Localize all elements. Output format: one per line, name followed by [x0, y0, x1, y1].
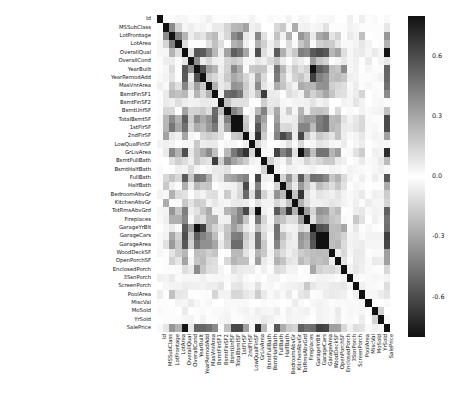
- y-tick-label: FullBath: [130, 175, 151, 180]
- y-tick-label: PoolArea: [128, 292, 151, 297]
- y-tick-label: WoodDeckSF: [116, 250, 151, 255]
- x-axis-tick-labels: IdMSSubClassLotFrontageLotAreaOverallQua…: [157, 334, 390, 404]
- y-tick-label: MSSubClass: [119, 25, 151, 30]
- colorbar-tick-label: 0.3: [432, 113, 442, 119]
- x-tick-label: GrLivArea: [260, 334, 265, 360]
- y-tick-label: GarageArea: [119, 242, 151, 247]
- colorbar-tick-label: 0.6: [432, 53, 442, 59]
- y-tick-label: BsmtHalfBath: [114, 167, 151, 172]
- y-tick-label: Id: [146, 16, 151, 21]
- y-tick-label: YearRemodAdd: [111, 75, 151, 80]
- y-tick-label: LotArea: [131, 41, 151, 46]
- y-tick-label: OverallQual: [120, 50, 151, 55]
- y-tick-label: MiscVal: [131, 300, 151, 305]
- y-tick-label: BsmtFullBath: [116, 158, 151, 163]
- correlation-heatmap-figure: IdMSSubClassLotFrontageLotAreaOverallQua…: [0, 0, 460, 404]
- y-tick-label: BedroomAbvGr: [111, 192, 151, 197]
- y-axis-tick-labels: IdMSSubClassLotFrontageLotAreaOverallQua…: [0, 15, 154, 332]
- y-tick-label: EnclosedPorch: [113, 267, 151, 272]
- colorbar-gradient: [408, 16, 425, 337]
- y-tick-label: 1stFlrSF: [130, 125, 151, 130]
- y-tick-label: YearBuilt: [128, 67, 151, 72]
- y-tick-label: TotalBsmtSF: [119, 117, 151, 122]
- y-tick-label: GrLivArea: [125, 150, 151, 155]
- y-tick-label: Fireplaces: [125, 217, 151, 222]
- x-tick-label: SalePrice: [389, 334, 394, 358]
- y-tick-label: 3SsnPorch: [124, 275, 151, 280]
- y-tick-label: MoSold: [132, 308, 151, 313]
- y-tick-label: GarageCars: [120, 233, 151, 238]
- y-tick-label: OverallCond: [118, 58, 151, 63]
- y-tick-label: GarageYrBlt: [119, 225, 151, 230]
- y-tick-label: HalfBath: [128, 183, 151, 188]
- y-tick-label: LowQualFinSF: [114, 142, 151, 147]
- y-tick-label: BsmtUnfSF: [122, 108, 151, 113]
- colorbar: 0.60.30.0-0.3-0.6: [408, 16, 460, 338]
- heatmap-matrix: [157, 15, 390, 332]
- colorbar-tick-label: -0.3: [432, 233, 444, 239]
- colorbar-tick-label: 0.0: [432, 173, 442, 179]
- y-tick-label: MasVnrArea: [119, 83, 151, 88]
- heatmap-plot-area: [157, 15, 390, 332]
- y-tick-label: SalePrice: [127, 325, 151, 330]
- y-tick-label: BsmtFinSF2: [120, 100, 151, 105]
- y-tick-label: YrSold: [134, 317, 151, 322]
- y-tick-label: 2ndFlrSF: [128, 133, 151, 138]
- y-tick-label: TotRmsAbvGrd: [112, 208, 151, 213]
- y-tick-label: OpenPorchSF: [116, 258, 151, 263]
- colorbar-tick-label: -0.6: [432, 294, 444, 300]
- y-tick-label: KitchenAbvGr: [115, 200, 151, 205]
- y-tick-label: BsmtFinSF1: [120, 92, 151, 97]
- x-tick-label: MSSubClass: [168, 334, 173, 366]
- y-tick-label: ScreenPorch: [118, 283, 151, 288]
- y-tick-label: LotFrontage: [120, 33, 151, 38]
